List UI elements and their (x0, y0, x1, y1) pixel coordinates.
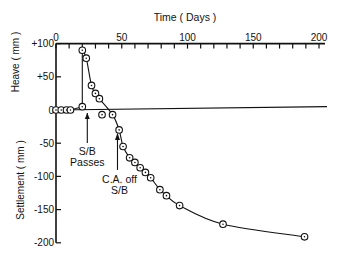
data-point-dot (95, 93, 97, 95)
sb-passes-arrowhead (85, 113, 90, 119)
data-point-dot (70, 109, 72, 111)
data-point-dot (179, 205, 181, 207)
data-point-dot (112, 114, 114, 116)
data-point-dot (60, 109, 62, 111)
y-tick-label: -200 (34, 237, 54, 248)
ca-off-arrowhead (115, 133, 120, 140)
y-tick-label: -50 (40, 138, 55, 149)
heave-settlement-chart: 050100150200Time ( Days )+100+500-50-100… (0, 0, 340, 260)
data-point-dot (99, 98, 101, 100)
data-point-dot (159, 189, 161, 191)
y-tick-label: +100 (31, 38, 54, 49)
x-tick-label: 50 (116, 32, 128, 43)
y-axis-title-heave: Heave ( mm ) (10, 32, 21, 93)
data-point-dot (55, 109, 57, 111)
data-point-dot (82, 49, 84, 51)
data-point-dot (304, 236, 306, 238)
data-point-dot (91, 85, 93, 87)
zero-reference-line (56, 107, 327, 110)
x-tick-label: 200 (311, 32, 328, 43)
settlement-curve (82, 50, 304, 237)
x-tick-label: 100 (179, 32, 196, 43)
ca-off-label: S/B (111, 184, 128, 196)
sb-passes-label: Passes (70, 156, 104, 168)
data-curves (56, 50, 327, 237)
data-point-dot (118, 129, 120, 131)
data-point-dot (139, 167, 141, 169)
x-tick-label: 0 (53, 32, 59, 43)
x-axis-title: Time ( Days ) (154, 11, 217, 23)
data-point-dot (150, 177, 152, 179)
data-points (53, 47, 308, 240)
y-tick-label: -150 (34, 204, 54, 215)
data-point-dot (222, 223, 224, 225)
data-point-dot (145, 172, 147, 174)
data-point-dot (101, 114, 103, 116)
y-tick-label: +50 (37, 71, 54, 82)
y-axis-title-settlement: Settlement ( mm ) (15, 140, 26, 219)
x-tick-label: 150 (245, 32, 262, 43)
data-point-dot (166, 195, 168, 197)
y-tick-label: -100 (34, 171, 54, 182)
axes (56, 44, 325, 243)
data-point-dot (85, 57, 87, 59)
data-point-dot (82, 106, 84, 108)
data-point-dot (134, 162, 136, 164)
data-point-dot (129, 157, 131, 159)
data-point-dot (122, 146, 124, 148)
